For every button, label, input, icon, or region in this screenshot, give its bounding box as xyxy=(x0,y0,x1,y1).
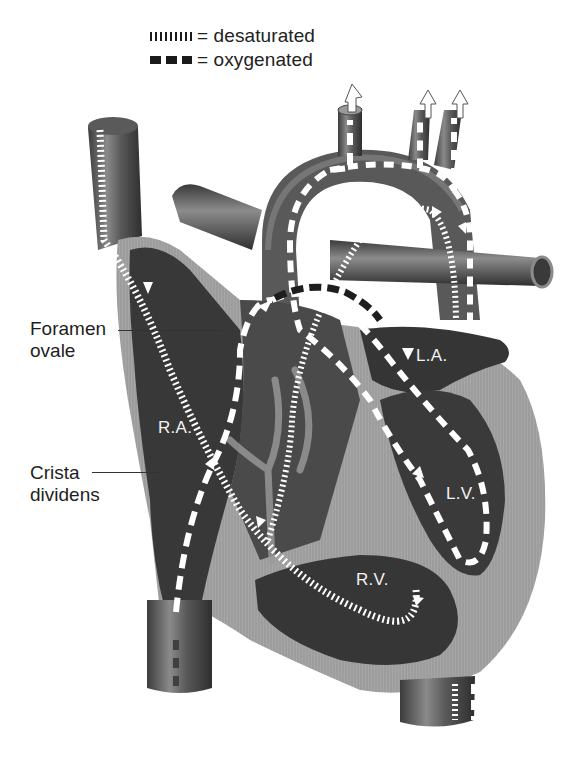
legend-label-oxygenated: = oxygenated xyxy=(197,49,313,71)
callout-foramen-ovale: Foramen ovale xyxy=(30,318,106,362)
label-right-ventricle: R.V. xyxy=(356,570,389,590)
label-left-atrium: L.A. xyxy=(416,346,447,366)
callout-crista-dividens: Crista dividens xyxy=(30,462,100,506)
superior-vena-cava xyxy=(88,117,142,250)
heart-illustration xyxy=(0,0,582,758)
callout-foramen-ovale-line1: Foramen xyxy=(30,318,106,340)
descending-vessel xyxy=(400,676,475,727)
legend-item-desaturated: = desaturated xyxy=(150,24,315,48)
label-right-atrium: R.A. xyxy=(158,418,192,438)
legend: = desaturated = oxygenated xyxy=(150,24,315,72)
inferior-vena-cava xyxy=(147,600,212,693)
callout-crista-dividens-line2: dividens xyxy=(30,484,100,506)
legend-item-oxygenated: = oxygenated xyxy=(150,48,315,72)
leader-line-crista-dividens xyxy=(92,472,160,473)
leader-line-foramen-ovale xyxy=(118,330,222,331)
dashed-line-icon xyxy=(150,56,192,64)
callout-crista-dividens-line1: Crista xyxy=(30,462,100,484)
dotted-line-icon xyxy=(150,32,192,41)
legend-label-desaturated: = desaturated xyxy=(197,25,315,47)
fetal-heart-circulation-diagram: = desaturated = oxygenated Foramen ovale… xyxy=(0,0,582,758)
callout-foramen-ovale-line2: ovale xyxy=(30,340,106,362)
pulmonary-artery-branch xyxy=(172,184,262,250)
label-left-ventricle: L.V. xyxy=(446,484,476,504)
